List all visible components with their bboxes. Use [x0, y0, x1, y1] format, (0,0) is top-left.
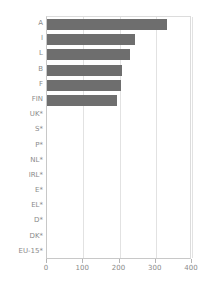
y-axis-label-EU-15*: EU-15*: [19, 244, 43, 259]
y-axis-label-F: F: [39, 77, 43, 92]
bar-row: [47, 47, 190, 62]
y-axis-label-A: A: [38, 16, 43, 31]
bar-row: [47, 214, 190, 229]
bar-row: [47, 17, 190, 32]
bar-row: [47, 78, 190, 93]
y-axis-category-labels: AILBFFINUK*S*P*NL*IRL*E*EL*D*DK*EU-15*: [0, 16, 43, 259]
bar-row: [47, 63, 190, 78]
y-axis-label-NL*: NL*: [30, 153, 43, 168]
x-tick-label-0: 0: [44, 264, 48, 272]
y-axis-label-EL*: EL*: [31, 198, 43, 213]
bar-F: [47, 80, 121, 91]
bar-row: [47, 32, 190, 47]
bar-row: [47, 108, 190, 123]
plot-area: [46, 16, 191, 259]
x-tick-label-100: 100: [76, 264, 89, 272]
y-axis-label-IRL*: IRL*: [29, 168, 43, 183]
y-axis-label-P*: P*: [35, 138, 43, 153]
bar-L: [47, 49, 130, 60]
y-axis-label-UK*: UK*: [30, 107, 43, 122]
bar-B: [47, 65, 122, 76]
bar-A: [47, 19, 167, 30]
x-tick-200: [119, 259, 120, 263]
y-axis-label-L: L: [39, 46, 43, 61]
x-tick-300: [155, 259, 156, 263]
bar-chart-figure: AILBFFINUK*S*P*NL*IRL*E*EL*D*DK*EU-15* 0…: [0, 0, 210, 295]
bar-row: [47, 184, 190, 199]
bar-row: [47, 230, 190, 245]
x-tick-label-300: 300: [148, 264, 161, 272]
gridline-400: [192, 17, 193, 258]
x-tick-400: [191, 259, 192, 263]
bar-FIN: [47, 95, 117, 106]
bar-row: [47, 93, 190, 108]
bar-I: [47, 34, 135, 45]
y-axis-label-B: B: [38, 62, 43, 77]
bar-row: [47, 199, 190, 214]
y-axis-label-FIN: FIN: [32, 92, 43, 107]
bar-row: [47, 139, 190, 154]
y-axis-label-E*: E*: [35, 183, 43, 198]
x-tick-0: [46, 259, 47, 263]
bars-layer: [47, 17, 190, 258]
x-axis-tick-labels: 0100200300400: [0, 264, 210, 276]
y-axis-label-DK*: DK*: [30, 229, 43, 244]
y-axis-label-I: I: [41, 31, 43, 46]
x-tick-label-200: 200: [112, 264, 125, 272]
x-tick-label-400: 400: [184, 264, 197, 272]
bar-row: [47, 154, 190, 169]
bar-row: [47, 245, 190, 260]
bar-row: [47, 123, 190, 138]
bar-row: [47, 169, 190, 184]
y-axis-label-D*: D*: [34, 213, 43, 228]
x-tick-100: [82, 259, 83, 263]
y-axis-label-S*: S*: [35, 122, 43, 137]
